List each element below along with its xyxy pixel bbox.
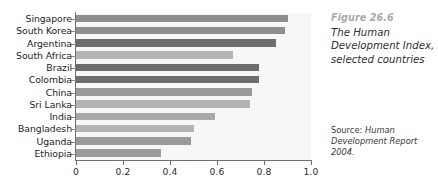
figure-caption: Figure 26.6 The Human Development Index,… — [331, 12, 435, 66]
figure-title: The Human Development Index, selected co… — [331, 26, 435, 66]
x-tick — [217, 161, 218, 165]
x-tick-layer: 00.20.40.60.81.0 — [0, 0, 318, 180]
figure-number: Figure 26.6 — [331, 12, 435, 23]
x-tick-label: 0.2 — [116, 166, 131, 177]
x-tick — [311, 161, 312, 165]
x-tick-label: 0.6 — [210, 166, 225, 177]
x-tick-label: 0.4 — [163, 166, 178, 177]
x-tick-label: 0.8 — [257, 166, 272, 177]
x-tick — [76, 161, 77, 165]
x-tick — [264, 161, 265, 165]
x-tick — [123, 161, 124, 165]
source-note: Source: Human Development Report 2004. — [331, 125, 435, 159]
x-tick-label: 1.0 — [304, 166, 319, 177]
x-tick — [170, 161, 171, 165]
x-tick-label: 0 — [73, 166, 79, 177]
hdi-bar-chart: SingaporeSouth KoreaArgentinaSouth Afric… — [0, 0, 318, 180]
source-prefix: Source: — [331, 125, 365, 135]
figure-page: SingaporeSouth KoreaArgentinaSouth Afric… — [0, 0, 438, 180]
